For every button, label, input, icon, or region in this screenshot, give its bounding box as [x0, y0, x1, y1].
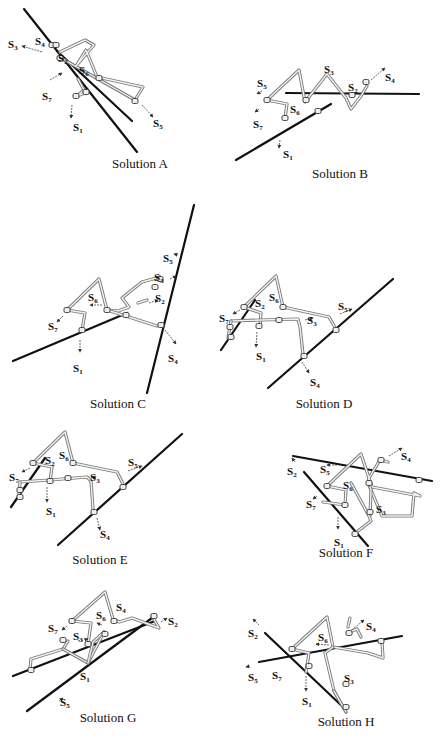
screw-axis-arrow [62, 626, 67, 630]
joint-marker [276, 318, 282, 323]
screw-label: S7 [48, 622, 58, 636]
joint-marker [30, 461, 36, 466]
screw-label: S5 [248, 671, 258, 685]
solution-caption: Solution C [90, 396, 146, 411]
screw-label: S6 [343, 479, 353, 493]
link-bar [351, 483, 371, 533]
screw-label: S7 [306, 498, 316, 512]
screw-label: S4 [366, 620, 376, 634]
joint-marker [228, 335, 234, 340]
screw-label: S6 [59, 449, 69, 463]
screw-axis-arrow [142, 105, 153, 117]
screw-label: S1 [73, 362, 83, 376]
screw-label: S6 [269, 291, 279, 305]
screw-label: S2 [348, 81, 358, 95]
screw-label: S5 [320, 463, 330, 477]
link-bar [67, 277, 160, 311]
solution-caption: Solution F [319, 545, 374, 560]
screw-label: S5 [338, 300, 348, 314]
solution-panel-b: S5S3S2S4S6S7S1Solution B [236, 63, 419, 181]
solution-caption: Solution B [312, 166, 368, 181]
solution-panel-e: S2S6S7S3S5S1S4Solution E [9, 432, 182, 567]
joint-marker [256, 324, 262, 329]
screw-label: S4 [35, 35, 45, 49]
screw-label: S3 [344, 672, 354, 686]
screw-label: S4 [401, 450, 411, 464]
joint-marker [17, 495, 23, 500]
joint-marker [366, 481, 372, 486]
joint-marker [28, 668, 34, 673]
joint-marker [282, 116, 288, 121]
solution-caption: Solution G [80, 710, 137, 725]
screw-label: S6 [88, 291, 98, 305]
screw-label: S2 [248, 627, 258, 641]
screw-label: S3 [8, 38, 18, 52]
solution-panel-f: S4S5S2S6S7S3S1Solution F [287, 448, 432, 560]
screw-label: S5 [153, 117, 163, 131]
screw-label: S7 [272, 669, 282, 683]
joint-marker [102, 632, 108, 637]
screw-axis-arrow [165, 330, 176, 344]
joint-marker [17, 488, 23, 493]
link-bar [231, 319, 303, 354]
joint-marker [65, 476, 71, 481]
joint-marker [47, 479, 53, 484]
joint-marker [120, 485, 126, 490]
screw-label: S1 [46, 505, 56, 519]
screw-label: S4 [116, 601, 126, 615]
joint-marker [104, 308, 110, 313]
screw-label: S3 [376, 503, 386, 517]
joint-marker [152, 285, 158, 290]
joint-marker [69, 619, 75, 624]
screw-label: S4 [168, 352, 178, 366]
joint-marker [342, 503, 348, 508]
joint-marker [53, 43, 59, 48]
solution-panel-h: S2S5S7S6S4S3S1Solution H [246, 617, 402, 729]
screw-axis-arrow [174, 254, 178, 255]
screw-label: S1 [80, 670, 90, 684]
screw-label: S4 [310, 376, 320, 390]
joint-marker [352, 532, 358, 537]
link-bar [325, 647, 346, 712]
screw-axis-arrow [57, 316, 63, 322]
screw-label: S7 [9, 471, 19, 485]
screw-axis-arrow [71, 105, 72, 118]
screw-label: S7 [253, 118, 263, 132]
screw-axis-arrow [233, 310, 240, 314]
screw-axis-arrow [292, 458, 295, 462]
solution-panel-a: S3S4S2S6S7S1S5Solution A [8, 9, 169, 171]
joint-marker [324, 484, 330, 489]
joint-marker [64, 308, 70, 313]
joint-axis-line [268, 279, 393, 388]
screw-axis-arrow [246, 666, 250, 667]
joint-marker [132, 99, 138, 104]
joint-axis-line [58, 434, 182, 545]
screw-label: S4 [100, 528, 110, 542]
screw-axis-arrow [97, 623, 102, 625]
joint-marker [416, 478, 422, 483]
screw-axis-arrow [371, 68, 385, 80]
screw-label: S6 [318, 631, 328, 645]
joint-marker [158, 323, 164, 328]
screw-label: S1 [256, 350, 266, 364]
screw-label: S3 [307, 314, 317, 328]
screw-label: S1 [283, 148, 293, 162]
joint-marker [123, 313, 129, 318]
screw-label: S5 [60, 696, 70, 710]
joint-marker [151, 614, 157, 619]
link-bar [327, 454, 420, 516]
screw-axis-arrow [257, 91, 262, 94]
joint-marker [111, 619, 117, 624]
screw-label: S1 [302, 695, 312, 709]
joint-marker [315, 109, 321, 114]
joint-marker [264, 98, 270, 103]
screw-label: S7 [48, 320, 58, 334]
joint-marker [301, 354, 307, 359]
joint-marker [96, 76, 102, 81]
solution-caption: Solution D [296, 396, 353, 411]
screw-label: S7 [42, 90, 52, 104]
joint-marker [346, 631, 352, 636]
screw-label: S5 [163, 252, 173, 266]
solution-panel-d: S2S6S7S3S5S1S4Solution D [219, 276, 393, 411]
screw-label: S4 [385, 71, 395, 85]
